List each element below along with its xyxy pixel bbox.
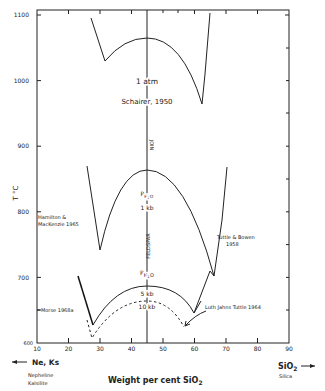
x-ticks: [69, 10, 258, 343]
x-axis-label: Weight per cent SiO2: [108, 376, 203, 386]
curve-1kb: [87, 166, 227, 276]
y-ticks: [37, 15, 289, 310]
left-arrowhead-icon: [12, 360, 17, 364]
xtick-70: 70: [222, 345, 230, 352]
ytick-600: 600: [23, 340, 33, 346]
label-tuttle-1: Tuttle & Bowen: [216, 234, 255, 240]
feldspar-label: FELDSPAR: [145, 233, 151, 259]
curve-5kb: [78, 276, 93, 325]
left-endmember: Ne, Ks: [32, 358, 60, 367]
xtick-80: 80: [254, 345, 262, 352]
label-5kb: 5 kb: [140, 290, 153, 297]
xtick-10: 10: [33, 345, 41, 352]
xtick-30: 30: [96, 345, 104, 352]
xtick-50: 50: [159, 345, 167, 352]
label-tuttle-2: 1958: [226, 241, 239, 247]
ytick-700: 700: [18, 274, 30, 281]
right-sublabel-silica: Silica: [279, 373, 292, 379]
xtick-90: 90: [285, 345, 293, 352]
ytick-1000: 1000: [14, 77, 29, 84]
left-sublabel-nepheline: Nepheline: [28, 372, 53, 379]
ytick-900: 900: [18, 142, 30, 149]
label-10kb: 10 kb: [139, 303, 156, 310]
left-sublabel-kalsilite: Kalsilite: [28, 380, 47, 386]
label-hamilton-1: Hamilton &: [38, 214, 66, 220]
plot-frame: [37, 10, 289, 343]
ytick-1100: 1100: [14, 11, 29, 18]
curve-10kb: [87, 301, 184, 338]
label-1kb: 1 kb: [140, 204, 153, 211]
xtick-60: 60: [191, 345, 199, 352]
label-morse: Morse 1968a: [41, 307, 74, 313]
phase-diagram: 1100 1000 900 800 700 600 10 20 30 40 50…: [0, 0, 325, 391]
right-arrowhead-icon: [310, 364, 315, 368]
label-1atm: 1 atm: [136, 77, 158, 86]
label-hamilton-2: MacKenzie 1965: [38, 221, 79, 227]
right-endmember: SiO2: [278, 362, 298, 372]
y-axis-label: T °C: [12, 185, 20, 201]
ytick-800: 800: [18, 208, 30, 215]
xtick-20: 20: [65, 345, 73, 352]
xtick-40: 40: [128, 345, 136, 352]
label-schairer: Schairer, 1950: [121, 98, 172, 106]
join-label: JOIN: [149, 139, 155, 151]
curve-1atm: [91, 13, 210, 104]
label-luth: Luth Jahns Tuttle 1964: [205, 304, 261, 310]
luth-arrow: [185, 311, 206, 326]
